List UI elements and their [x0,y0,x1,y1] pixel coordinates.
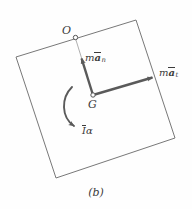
vector-label-normal-acceleration: man [85,53,106,64]
point-label-G: G [88,99,97,110]
vector-label-tangential-acceleration: mat [159,68,178,79]
vector-label-t-mass: m [159,67,168,78]
vector-label-n-mass: m [85,52,94,63]
point-label-O-text: O [62,24,71,37]
vector-label-t-subscript: t [175,71,178,79]
vector-label-inertia: I [82,126,86,136]
vector-label-alpha: α [86,125,93,136]
vector-label-n-subscript: n [101,56,105,64]
vector-label-t-accel: a [168,68,174,78]
point-label-G-text: G [88,98,97,111]
figure-container: O G man mat Iα (b) [0,0,192,209]
vector-label-n-accel: a [94,53,100,63]
point-O-marker [73,35,77,39]
figure-caption: (b) [0,186,192,199]
point-G-marker [91,93,95,97]
vector-label-angular-acceleration: Iα [82,126,93,136]
point-label-O: O [62,25,71,36]
